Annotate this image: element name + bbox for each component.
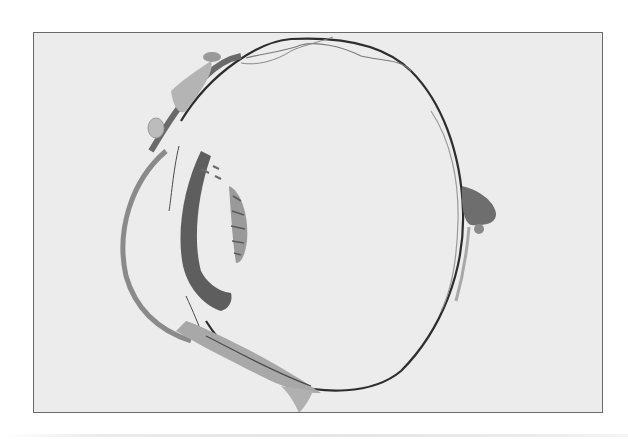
iris-thin-line: [169, 146, 179, 211]
lower-eyelid-tissue: [176, 321, 321, 393]
lens: [229, 186, 247, 263]
upper-lid-node: [148, 118, 164, 138]
optic-nerve-stump: [474, 224, 484, 234]
bottom-divider: [0, 434, 628, 437]
eye-cross-section-illustration: [34, 33, 603, 413]
upper-conjunctiva: [151, 56, 241, 151]
retina-fold-top: [246, 44, 411, 71]
upper-fornix: [203, 52, 221, 62]
iris-ciliary-body: [180, 151, 231, 311]
optic-nerve-head: [462, 186, 496, 225]
eye-histology-figure: [33, 32, 603, 413]
